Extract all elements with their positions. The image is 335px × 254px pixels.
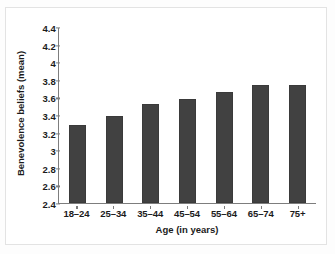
bar[interactable] (106, 116, 123, 203)
bar-slot (206, 28, 243, 203)
bar[interactable] (142, 104, 159, 203)
x-tick-mark (224, 206, 225, 209)
bar[interactable] (289, 85, 306, 203)
bar[interactable] (216, 92, 233, 203)
bar[interactable] (69, 125, 86, 203)
x-tick-mark (298, 206, 299, 209)
x-tick-mark (187, 206, 188, 209)
bar-series (59, 28, 316, 203)
x-axis-title: Age (in years) (58, 224, 316, 235)
x-tick-mark (261, 206, 262, 209)
y-axis-title: Benevolence beliefs (mean) (15, 26, 26, 202)
bar-slot (169, 28, 206, 203)
x-axis-ticks: 18–2425–3435–4445–5455–6465–7475+ (58, 206, 316, 222)
bar-slot (243, 28, 280, 203)
bar[interactable] (252, 85, 269, 203)
figure-container: 2.42.62.833.23.43.63.844.24.4 18–2425–34… (0, 0, 335, 254)
plot-area (58, 28, 316, 204)
x-tick-mark (150, 206, 151, 209)
bar-slot (59, 28, 96, 203)
bar-slot (132, 28, 169, 203)
bar-slot (279, 28, 316, 203)
y-axis-ticks: 2.42.62.833.23.43.63.844.24.4 (4, 28, 56, 204)
bar[interactable] (179, 99, 196, 203)
bar-slot (96, 28, 133, 203)
x-tick-mark (76, 206, 77, 209)
x-tick-mark (113, 206, 114, 209)
